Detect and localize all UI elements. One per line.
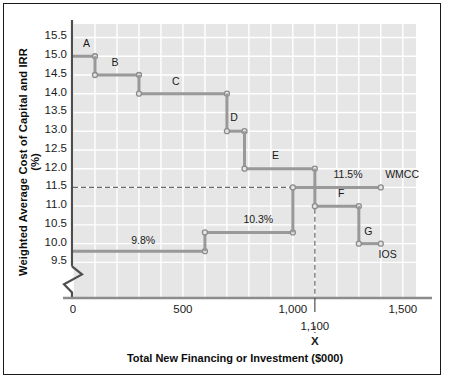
- chart-annotation: G: [364, 225, 372, 237]
- x-tick-label: 500: [153, 303, 213, 315]
- x-tick-label: 0: [43, 303, 103, 315]
- ios-point-D-start: [224, 129, 229, 134]
- wmcc-point-2-start: [202, 230, 207, 235]
- chart-annotation: C: [172, 75, 180, 87]
- chart-annotation: 11.5%: [334, 168, 363, 180]
- x-tick-label: 1,000: [263, 303, 323, 315]
- ios-point-C-start: [136, 91, 141, 96]
- wmcc-point-3-start: [290, 185, 295, 190]
- chart-plot: [0, 0, 456, 381]
- y-tick-label: 13.0: [27, 123, 67, 135]
- ios-point-E-start: [242, 166, 247, 171]
- ios-point-F-start: [312, 204, 317, 209]
- y-tick-label: 13.5: [27, 104, 67, 116]
- chart-annotation: A: [83, 37, 90, 49]
- y-tick-label: 11.0: [27, 198, 67, 210]
- wmcc-point-3-end: [378, 185, 383, 190]
- ios-point-G-end: [378, 241, 383, 246]
- y-tick-label: 12.0: [27, 161, 67, 173]
- chart-annotation: IOS: [379, 248, 397, 260]
- chart-stage: Weighted Average Cost of Capital and IRR…: [0, 0, 456, 381]
- y-tick-label: 12.5: [27, 142, 67, 154]
- y-tick-label: 11.5: [27, 179, 67, 191]
- y-tick-label: 15.0: [27, 48, 67, 60]
- ios-point-B-start: [92, 72, 97, 77]
- chart-annotation: D: [230, 111, 238, 123]
- y-tick-label: 14.5: [27, 67, 67, 79]
- y-tick-label: 10.5: [27, 217, 67, 229]
- chart-annotation: WMCC: [385, 168, 419, 180]
- y-tick-label: 9.5: [27, 254, 67, 266]
- chart-annotation: 9.8%: [131, 234, 155, 246]
- chart-annotation: B: [111, 56, 118, 68]
- chart-annotation: E: [272, 149, 279, 161]
- chart-annotation: 10.3%: [243, 213, 273, 225]
- chart-annotation: F: [338, 187, 344, 199]
- y-tick-label: 15.5: [27, 29, 67, 41]
- ios-point-G-start: [356, 241, 361, 246]
- intersection-marker-label: X: [285, 335, 345, 347]
- y-tick-label: 14.0: [27, 86, 67, 98]
- intersection-x-label: 1,100: [285, 320, 345, 332]
- x-tick-label: 1,500: [373, 303, 433, 315]
- y-tick-label: 10.0: [27, 236, 67, 248]
